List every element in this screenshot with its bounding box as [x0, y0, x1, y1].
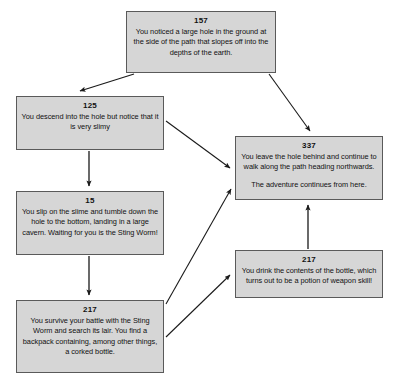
node-15-id: 15: [21, 195, 159, 206]
edge-125-to-337: [166, 121, 230, 168]
flowchart-canvas: 157 You noticed a large hole in the grou…: [0, 0, 396, 384]
node-337-body: You leave the hole behind and continue t…: [240, 152, 378, 190]
node-337-id: 337: [240, 140, 378, 151]
edge-217-left-to-217-right: [166, 275, 230, 337]
node-217-left[interactable]: 217 You survive your battle with the Sti…: [16, 300, 164, 373]
node-217-left-paragraph: You survive your battle with the Sting W…: [21, 316, 159, 358]
node-217-right-body: You drink the contents of the bottle, wh…: [240, 266, 378, 287]
node-15-paragraph: You slip on the slime and tumble down th…: [21, 207, 159, 238]
node-157[interactable]: 157 You noticed a large hole in the grou…: [126, 11, 276, 73]
node-15-body: You slip on the slime and tumble down th…: [21, 207, 159, 238]
edge-157-to-337: [269, 74, 310, 131]
node-217-right-paragraph: You drink the contents of the bottle, wh…: [240, 266, 378, 287]
node-217-left-id: 217: [21, 304, 159, 315]
node-337[interactable]: 337 You leave the hole behind and contin…: [235, 136, 383, 200]
node-217-left-body: You survive your battle with the Sting W…: [21, 316, 159, 358]
edge-157-to-125: [80, 74, 134, 91]
node-157-body: You noticed a large hole in the ground a…: [131, 27, 271, 58]
node-157-id: 157: [131, 15, 271, 26]
node-125[interactable]: 125 You descend into the hole but notice…: [16, 96, 164, 150]
node-217-right-id: 217: [240, 254, 378, 265]
node-15[interactable]: 15 You slip on the slime and tumble down…: [16, 191, 164, 255]
node-337-paragraph-1: You leave the hole behind and continue t…: [240, 152, 378, 173]
node-125-paragraph: You descend into the hole but notice tha…: [21, 112, 159, 133]
node-125-id: 125: [21, 100, 159, 111]
node-337-paragraph-2: The adventure continues from here.: [240, 180, 378, 190]
node-157-paragraph: You noticed a large hole in the ground a…: [131, 27, 271, 58]
node-217-right[interactable]: 217 You drink the contents of the bottle…: [235, 250, 383, 298]
node-125-body: You descend into the hole but notice tha…: [21, 112, 159, 133]
edge-217-left-to-337: [166, 189, 231, 304]
